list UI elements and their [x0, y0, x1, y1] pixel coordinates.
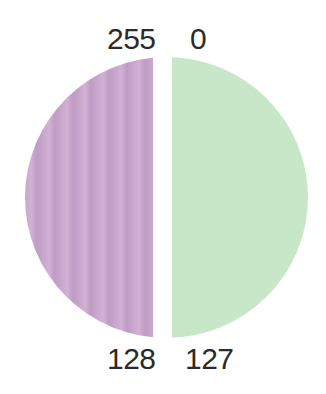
left-half-lilac	[25, 57, 153, 338]
label-top-left: 255	[107, 24, 156, 54]
split-circle	[25, 57, 308, 338]
center-gap	[153, 57, 172, 338]
label-bottom-left: 128	[107, 344, 156, 374]
right-half-green	[172, 57, 308, 338]
label-bottom-right: 127	[185, 344, 234, 374]
label-top-right: 0	[190, 24, 206, 54]
